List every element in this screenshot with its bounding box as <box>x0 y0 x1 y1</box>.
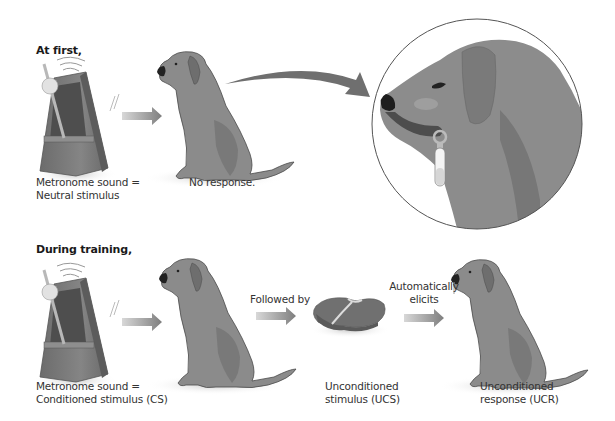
label-line: Unconditioned <box>480 380 559 393</box>
heading-during-training: During training, <box>36 243 132 256</box>
no-response-label: No response. <box>189 176 255 189</box>
label-line: Neutral stimulus <box>36 189 140 202</box>
label-line: Unconditioned <box>325 380 400 393</box>
followed-by-label: Followed by <box>250 293 310 306</box>
label-line: elicits <box>384 293 464 306</box>
metronome-label-neutral: Metronome sound = Neutral stimulus <box>36 176 140 202</box>
arrow-right-icon <box>122 107 162 125</box>
ucr-label: Unconditioned response (UCR) <box>480 380 559 406</box>
label-line: Conditioned stimulus (CS) <box>36 393 168 406</box>
label-line: Metronome sound = <box>36 176 140 189</box>
metronome-icon <box>33 57 119 184</box>
dog-icon <box>146 259 296 395</box>
heading-at-first: At first, <box>36 44 82 57</box>
arrow-right-icon <box>404 309 444 327</box>
metronome-label-cs: Metronome sound = Conditioned stimulus (… <box>36 380 168 406</box>
dog-icon <box>144 52 294 188</box>
label-line: stimulus (UCS) <box>325 393 400 406</box>
arrow-right-icon <box>122 313 162 331</box>
label-line: Automatically <box>384 280 464 293</box>
label-line: response (UCR) <box>480 393 559 406</box>
label-line: Metronome sound = <box>36 380 168 393</box>
dog-head-saliva-tube-icon <box>372 19 600 240</box>
automatically-elicits-label: Automatically elicits <box>384 280 464 306</box>
curved-arrow-icon <box>225 71 370 97</box>
conditioning-diagram <box>0 0 615 421</box>
metronome-icon <box>33 263 119 390</box>
meat-icon <box>310 298 390 338</box>
arrow-right-icon <box>256 307 296 325</box>
ucs-label: Unconditioned stimulus (UCS) <box>325 380 400 406</box>
